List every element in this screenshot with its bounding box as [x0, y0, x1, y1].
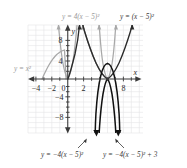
y-tick-label-minus4: −4: [55, 93, 64, 102]
label-y-equals-x-minus-5-squared: y = (x − 5)²: [120, 14, 154, 21]
label-y-equals-minus-4-x-minus-5-squared: y = −4(x − 5)²: [41, 152, 83, 159]
x-tick-label-minus4: −4: [32, 84, 41, 93]
x-tick-label-2: 2: [82, 84, 86, 93]
label-y-equals-4-x-minus-5-squared: y = 4(x − 5)²: [62, 14, 99, 21]
x-tick-label-8: 8: [121, 84, 125, 93]
x-axis-label: x: [133, 68, 138, 77]
parabola-transformation-graph: −4 −2 0 2 8 8 4 −4 −8 y x: [0, 0, 187, 168]
y-tick-label-4: 4: [59, 57, 63, 66]
y-axis-label: y: [71, 27, 76, 36]
y-tick-label-8: 8: [59, 36, 63, 45]
y-tick-label-minus8: −8: [55, 113, 64, 122]
label-y-equals-minus-4-x-minus-5-squared-plus-3: y = −4(x − 5)² + 3: [103, 152, 157, 159]
label-y-equals-x-squared: y = x²: [14, 66, 31, 73]
